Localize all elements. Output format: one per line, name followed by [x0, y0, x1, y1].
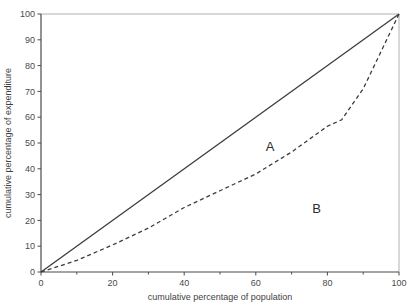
- x-tick-label: 0: [38, 278, 43, 288]
- y-tick-label: 40: [25, 164, 35, 174]
- region-label-b: B: [312, 201, 321, 216]
- x-tick-label: 40: [179, 278, 189, 288]
- lorenz-curve-chart: 0102030405060708090100 020406080100 AB c…: [0, 0, 410, 308]
- y-tick-label: 0: [30, 267, 35, 277]
- chart-canvas: 0102030405060708090100 020406080100 AB c…: [0, 0, 410, 308]
- x-tick-label: 100: [391, 278, 406, 288]
- x-tick-label: 20: [108, 278, 118, 288]
- y-tick-label: 60: [25, 112, 35, 122]
- y-tick-label: 10: [25, 241, 35, 251]
- y-tick-label: 50: [25, 138, 35, 148]
- x-tick-label: 80: [322, 278, 332, 288]
- x-tick-label: 60: [251, 278, 261, 288]
- y-tick-label: 100: [20, 9, 35, 19]
- y-tick-label: 80: [25, 61, 35, 71]
- y-axis-tick-labels: 0102030405060708090100: [20, 9, 35, 277]
- y-tick-label: 70: [25, 87, 35, 97]
- x-axis-title: cumulative percentage of population: [148, 292, 293, 302]
- y-tick-label: 90: [25, 35, 35, 45]
- y-tick-label: 30: [25, 190, 35, 200]
- x-axis-tick-labels: 020406080100: [38, 278, 406, 288]
- y-axis-title: cumulative percentage of expenditure: [3, 68, 13, 218]
- region-label-a: A: [266, 139, 275, 154]
- y-tick-label: 20: [25, 216, 35, 226]
